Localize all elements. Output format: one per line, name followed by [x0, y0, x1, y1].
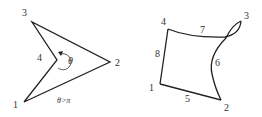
midside-label-7: 7: [200, 24, 205, 35]
edge-1-4: [160, 29, 168, 84]
element-diagrams: 3 2 1 4 θ θ>π 4 3 1 2 7 8 6 5: [0, 0, 262, 117]
right-node-label-1: 1: [149, 82, 154, 93]
right-node-label-4: 4: [161, 16, 166, 27]
concave-quad-figure: 3 2 1 4 θ θ>π: [13, 7, 120, 110]
left-node-label-4: 4: [37, 52, 42, 63]
diagram-canvas: 3 2 1 4 θ θ>π 4 3 1 2 7 8 6 5: [0, 0, 262, 117]
right-node-label-3: 3: [244, 10, 249, 21]
midside-label-8: 8: [155, 48, 160, 59]
left-node-label-2: 2: [115, 57, 120, 68]
theta-condition-label: θ>π: [57, 96, 71, 105]
left-node-label-1: 1: [13, 99, 18, 110]
midside-label-5: 5: [185, 93, 190, 104]
theta-label: θ: [68, 55, 73, 66]
midside-label-6: 6: [215, 57, 220, 68]
distorted-element-figure: 4 3 1 2 7 8 6 5: [149, 10, 249, 113]
edge-1-2: [160, 84, 221, 100]
left-node-label-3: 3: [22, 7, 27, 18]
right-node-label-2: 2: [224, 102, 229, 113]
